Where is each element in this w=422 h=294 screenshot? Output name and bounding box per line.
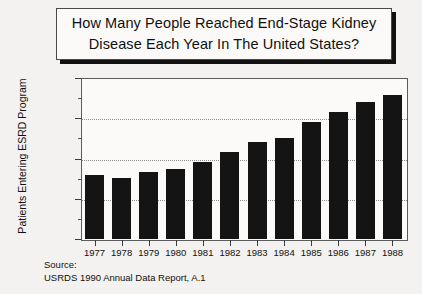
x-tick-mark: [230, 240, 231, 246]
bar-chart: Patients Entering ESRD Program 010,00020…: [0, 66, 422, 256]
x-tick-mark: [95, 240, 96, 246]
x-tick-mark: [311, 240, 312, 246]
chart-title-box: How Many People Reached End-Stage Kidney…: [56, 8, 392, 60]
bar: [329, 112, 348, 239]
bar: [193, 162, 212, 239]
bar: [112, 178, 131, 239]
chart-title-line-2: Disease Each Year In The United States?: [89, 34, 359, 55]
bars-layer: [81, 78, 406, 239]
source-label: Source:: [44, 258, 206, 271]
bar: [383, 95, 402, 239]
source-citation: USRDS 1990 Annual Data Report, A.1: [44, 271, 206, 284]
y-tick-mark: [75, 239, 81, 240]
bar: [85, 175, 104, 239]
x-tick-mark: [365, 240, 366, 246]
bar: [356, 102, 375, 239]
bar: [302, 122, 321, 239]
bar: [248, 142, 267, 239]
bar: [139, 172, 158, 239]
x-tick-mark: [338, 240, 339, 246]
x-tick-mark: [284, 240, 285, 246]
x-tick-mark: [122, 240, 123, 246]
x-tick-mark: [149, 240, 150, 246]
bar: [220, 152, 239, 239]
x-tick-mark: [257, 240, 258, 246]
chart-title-line-1: How Many People Reached End-Stage Kidney: [72, 13, 377, 34]
source-note: Source: USRDS 1990 Annual Data Report, A…: [44, 258, 206, 284]
bar: [275, 138, 294, 239]
x-tick-mark: [176, 240, 177, 246]
x-tick-mark: [392, 240, 393, 246]
x-tick-label: 1988: [372, 247, 412, 258]
x-tick-mark: [203, 240, 204, 246]
bar: [166, 169, 185, 239]
y-axis-title: Patients Entering ESRD Program: [16, 71, 28, 241]
